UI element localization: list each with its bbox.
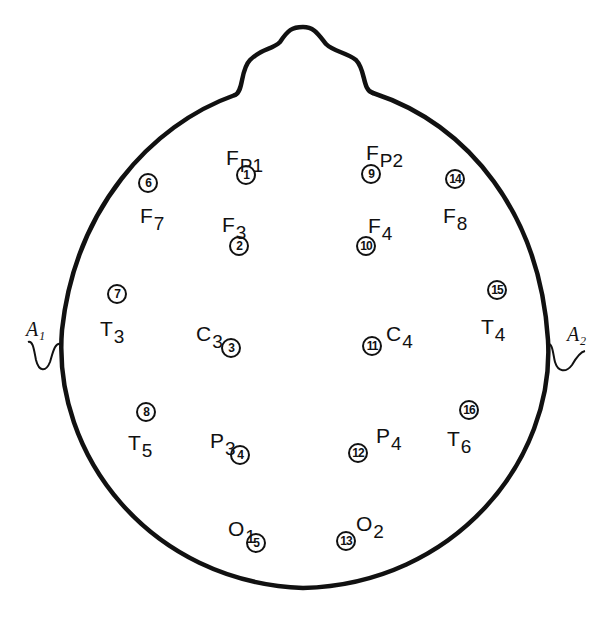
electrode-label-f8: F8 bbox=[443, 205, 467, 226]
electrode-label-sub: 4 bbox=[391, 433, 402, 454]
electrode-number-f8: 14 bbox=[445, 169, 465, 189]
electrode-label-t5: T5 bbox=[128, 432, 152, 453]
electrode-label-sub: P2 bbox=[380, 150, 403, 171]
electrode-label-f4: F4 bbox=[368, 215, 392, 236]
electrode-number-p4: 12 bbox=[348, 443, 368, 463]
electrode-label-base: F bbox=[443, 204, 456, 227]
electrode-label-sub: 4 bbox=[382, 223, 393, 244]
electrode-number-t5: 8 bbox=[136, 402, 156, 422]
electrode-label-base: P bbox=[376, 424, 390, 447]
electrode-label-t6: T6 bbox=[447, 428, 471, 449]
head-circle bbox=[61, 93, 548, 588]
electrode-label-base: T bbox=[128, 431, 141, 454]
electrode-label-base: T bbox=[447, 427, 460, 450]
right-ear-label: A₂ bbox=[567, 323, 586, 346]
electrode-number-o2: 13 bbox=[336, 531, 356, 551]
right-ear bbox=[547, 344, 585, 371]
electrode-label-base: F bbox=[366, 141, 379, 164]
electrode-number-f3: 2 bbox=[229, 236, 249, 256]
electrode-label-sub: 5 bbox=[142, 440, 153, 461]
electrode-label-sub: 4 bbox=[495, 324, 506, 345]
electrode-number-o1: 5 bbox=[246, 533, 266, 553]
electrode-label-base: C bbox=[386, 322, 401, 345]
electrode-label-base: F bbox=[222, 213, 235, 236]
electrode-label-base: O bbox=[228, 517, 244, 540]
electrode-number-t4: 15 bbox=[487, 280, 507, 300]
head-outline bbox=[0, 0, 610, 622]
electrode-label-p4: P4 bbox=[376, 425, 402, 446]
electrode-label-sub: 7 bbox=[154, 213, 165, 234]
electrode-label-base: C bbox=[196, 322, 211, 345]
electrode-label-sub: 2 bbox=[373, 521, 384, 542]
electrode-number-f7: 6 bbox=[138, 173, 158, 193]
electrode-label-base: F bbox=[140, 204, 153, 227]
electrode-label-sub: 8 bbox=[457, 213, 468, 234]
electrode-number-fp2: 9 bbox=[361, 164, 381, 184]
electrode-label-base: T bbox=[481, 315, 494, 338]
electrode-number-f4: 10 bbox=[356, 236, 376, 256]
electrode-label-base: P bbox=[210, 429, 224, 452]
electrode-label-c3: C3 bbox=[196, 323, 223, 344]
electrode-label-o2: O2 bbox=[356, 513, 384, 534]
electrode-label-c4: C4 bbox=[386, 323, 413, 344]
eeg-head-diagram: A₁ A₂ FP11FP29F76F32F410F814T37C33C411T4… bbox=[0, 0, 610, 622]
electrode-label-base: O bbox=[356, 512, 372, 535]
electrode-label-base: T bbox=[100, 317, 113, 340]
electrode-label-sub: 6 bbox=[461, 436, 472, 457]
electrode-label-t4: T4 bbox=[481, 316, 505, 337]
electrode-label-base: F bbox=[226, 146, 239, 169]
electrode-label-sub: 3 bbox=[114, 326, 125, 347]
electrode-number-t6: 16 bbox=[459, 400, 479, 420]
electrode-number-fp1: 1 bbox=[236, 165, 256, 185]
electrode-label-sub: 4 bbox=[402, 331, 413, 352]
electrode-label-t3: T3 bbox=[100, 318, 124, 339]
electrode-number-c4: 11 bbox=[362, 336, 382, 356]
electrode-number-t3: 7 bbox=[107, 284, 127, 304]
electrode-label-f7: F7 bbox=[140, 205, 164, 226]
left-ear-label: A₁ bbox=[26, 318, 45, 341]
electrode-label-f3: F3 bbox=[222, 214, 246, 235]
electrode-label-fp2: FP2 bbox=[366, 142, 403, 163]
electrode-label-base: F bbox=[368, 214, 381, 237]
electrode-number-p3: 4 bbox=[230, 445, 250, 465]
nose bbox=[235, 27, 373, 95]
electrode-number-c3: 3 bbox=[221, 338, 241, 358]
left-ear bbox=[28, 342, 61, 370]
